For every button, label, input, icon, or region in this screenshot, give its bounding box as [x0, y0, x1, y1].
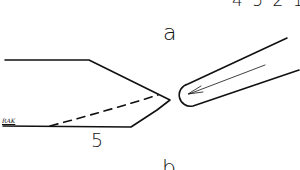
part-b-label: b: [162, 157, 176, 170]
nozzle-outline: [179, 38, 299, 106]
direction-arrow-head: [188, 86, 203, 94]
wedge-outline: [3, 60, 170, 127]
direction-arrow-shaft: [189, 65, 265, 94]
figure-number-label: 4 5 2 1: [232, 0, 300, 9]
reference-numeral-5: 5: [91, 131, 103, 150]
part-a-label: a: [163, 22, 176, 44]
technical-drawing: [0, 0, 300, 170]
dashed-edge: [50, 95, 158, 126]
signature-mark: RAK: [2, 118, 15, 124]
